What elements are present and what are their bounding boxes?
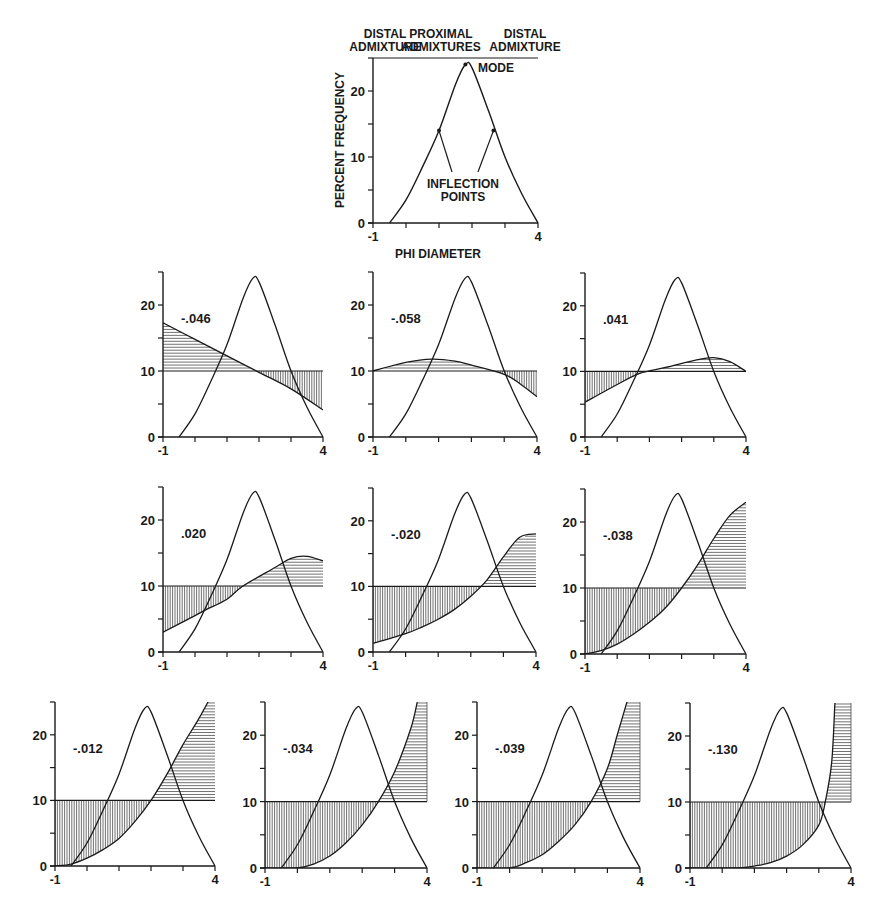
admixture-label: ADMIXTURES [401,40,480,54]
x-tick-label: 4 [423,874,431,889]
inflection-label: POINTS [441,190,486,204]
y-tick-label: 20 [351,514,365,529]
y-tick-label: 0 [358,645,365,660]
correlation-label: -.034 [283,741,313,756]
correlation-label: .020 [181,526,206,541]
y-tick-label: 20 [563,515,577,530]
y-tick-label: 0 [250,861,257,876]
weighting-curve [163,323,323,410]
weighting-panel-7: 01020-14-.012 [33,689,220,887]
admixture-label: DISTAL [504,27,546,41]
correlation-label: .041 [603,312,628,327]
correlation-label: -.058 [391,311,421,326]
y-tick-label: 0 [40,859,47,874]
distribution-curve [71,706,215,866]
x-axis-title: PHI DIAMETER [395,247,481,261]
hatched-area [690,683,851,868]
admixture-label: PROXIMAL [409,27,472,41]
y-tick-label: 10 [141,364,155,379]
y-tick-label: 10 [563,581,577,596]
hatched-area [163,323,321,408]
y-tick-label: 20 [351,84,365,99]
y-tick-label: 10 [668,795,682,810]
mode-label: MODE [478,61,514,75]
x-tick-label: 4 [532,658,540,673]
mode-point [463,63,467,67]
y-tick-label: 0 [462,861,469,876]
y-tick-label: 0 [675,861,682,876]
distribution-curve [601,493,746,654]
x-tick-label: -1 [368,230,379,244]
x-tick-label: 4 [742,660,750,675]
weighting-panel-8: 01020-14-.034 [243,682,432,889]
y-tick-label: 0 [570,430,577,445]
weighting-curve [265,702,417,868]
x-tick-label: -1 [580,444,591,458]
correlation-label: -.012 [73,741,103,756]
y-axis-title: PERCENT FREQUENCY [333,72,347,208]
hatched-area [265,682,427,868]
weighting-panels-grid: 01020-14-.04601020-14-.05801020-14.04101… [33,272,856,889]
y-tick-label: 20 [141,513,155,528]
y-tick-label: 20 [141,298,155,313]
y-tick-label: 0 [358,216,365,231]
y-tick-label: 20 [563,299,577,314]
y-tick-label: 0 [148,645,155,660]
y-tick-label: 10 [455,795,469,810]
x-tick-label: 4 [211,872,219,887]
distribution-curve [389,276,537,437]
weighting-panel-5: 01020-14-.020 [351,488,541,673]
x-tick-label: 4 [319,443,327,458]
correlation-label: -.039 [495,741,525,756]
correlation-label: -.046 [181,311,211,326]
correlation-label: -.130 [708,742,738,757]
x-tick-label: 4 [636,874,644,889]
y-tick-label: 20 [668,729,682,744]
y-tick-label: 20 [351,298,365,313]
x-tick-label: 4 [742,443,750,458]
y-tick-label: 10 [563,364,577,379]
y-tick-label: 10 [351,150,365,165]
weighting-panel-9: 01020-14-.039 [455,682,645,889]
weighting-panel-1: 01020-14-.046 [141,272,328,458]
x-tick-label: -1 [50,873,61,887]
x-tick-label: -1 [158,659,169,673]
hatched-area [55,691,215,866]
weighting-panel-10: 01020-14-.130 [668,683,856,889]
inflection-arrow [478,131,493,172]
x-tick-label: -1 [260,875,271,889]
weighting-panel-6: 01020-14-.038 [563,489,751,675]
y-tick-label: 0 [148,430,155,445]
correlation-label: -.020 [391,527,421,542]
x-tick-label: 4 [847,874,855,889]
y-tick-label: 10 [33,793,47,808]
y-tick-label: 20 [455,728,469,743]
weighting-panel-3: 01020-14.041 [563,273,751,458]
weighting-curve [477,702,627,868]
x-tick-label: -1 [368,659,379,673]
x-tick-label: 4 [319,658,327,673]
figure-canvas: 01020-14DISTALADMIXTUREPROXIMALADMIXTURE… [0,0,886,916]
weighting-panel-2: 01020-14-.058 [351,272,542,458]
y-tick-label: 20 [33,728,47,743]
x-tick-label: -1 [472,875,483,889]
y-tick-label: 20 [243,728,257,743]
x-tick-label: -1 [580,661,591,675]
x-tick-label: 4 [533,443,541,458]
x-tick-label: -1 [685,875,696,889]
distribution-curve [601,277,746,437]
y-tick-label: 10 [351,579,365,594]
admixture-label: DISTAL [364,27,406,41]
distribution-curve [179,491,323,652]
hatched-area [373,536,536,643]
reference-distribution-chart: 01020-14DISTALADMIXTUREPROXIMALADMIXTURE… [333,27,561,261]
inflection-arrow [439,131,452,172]
y-tick-label: 10 [351,364,365,379]
hatched-area [385,359,536,396]
y-tick-label: 0 [358,430,365,445]
distribution-curve [179,276,323,437]
x-tick-label: -1 [368,444,379,458]
hatched-area [163,556,323,632]
hatched-area [477,682,640,868]
inflection-label: INFLECTION [427,177,499,191]
